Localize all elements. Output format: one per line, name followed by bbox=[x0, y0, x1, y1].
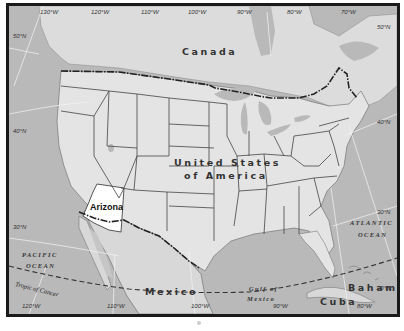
label-atlantic-ocean: OCEAN bbox=[358, 231, 387, 238]
label-cuba: Cuba bbox=[320, 296, 357, 307]
coord-top-70w: 70°W bbox=[341, 9, 357, 15]
coord-bottom-90w: 90°W bbox=[273, 303, 289, 309]
label-of-america: of America bbox=[184, 170, 268, 181]
coord-bottom-110w: 110°W bbox=[107, 303, 126, 309]
coord-top-110w: 110°W bbox=[141, 9, 160, 15]
coord-top-100w: 100°W bbox=[188, 9, 207, 15]
coord-bottom-120w: 120°W bbox=[22, 303, 41, 309]
label-canada: Canada bbox=[182, 46, 237, 57]
coord-left-30n: 30°N bbox=[13, 224, 27, 230]
coord-top-120w: 120°W bbox=[91, 9, 110, 15]
label-pacific-ocean: OCEAN bbox=[26, 262, 55, 269]
label-pacific: PACIFIC bbox=[22, 251, 58, 258]
coord-left-40n: 40°N bbox=[13, 128, 27, 134]
coord-right-30n: 30°N bbox=[377, 209, 391, 215]
label-gulf-of: Gulf of bbox=[249, 285, 278, 292]
coord-top-80w: 80°W bbox=[287, 9, 303, 15]
coord-right-50n: 50°N bbox=[377, 24, 391, 30]
north-america-map: Canada United States of America Mexico C… bbox=[9, 6, 397, 314]
label-atlantic: ATLANTIC bbox=[349, 219, 393, 226]
footer-dot bbox=[197, 321, 201, 325]
label-gulf-mexico: Mexico bbox=[246, 295, 275, 302]
label-arizona: Arizona bbox=[90, 202, 124, 212]
great-salt-lake bbox=[108, 144, 114, 152]
label-mexico: Mexico bbox=[145, 286, 198, 297]
coord-bottom-80w: 80°W bbox=[357, 303, 373, 309]
coord-right-40n: 40°N bbox=[377, 119, 391, 125]
map-frame: Canada United States of America Mexico C… bbox=[6, 3, 400, 317]
coord-top-90w: 90°W bbox=[237, 9, 253, 15]
coord-left-50n: 50°N bbox=[13, 33, 27, 39]
label-united-states: United States bbox=[174, 157, 281, 168]
coord-top-130w: 130°W bbox=[40, 9, 59, 15]
coord-bottom-100w: 100°W bbox=[191, 303, 210, 309]
coord-right-20n: 20°N bbox=[376, 285, 391, 291]
